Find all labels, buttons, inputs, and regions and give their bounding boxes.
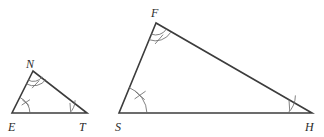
similar-triangles-diagram: N E T F S [0, 0, 324, 137]
vertex-label-t: T [79, 120, 87, 134]
vertex-label-e: E [7, 120, 16, 134]
angle-mark-e [20, 98, 30, 114]
angle-s-arc [130, 88, 148, 113]
angle-h-slash [289, 100, 290, 111]
vertex-label-h: H [304, 120, 315, 134]
angle-f-arc-outer [149, 33, 170, 41]
triangle-fsh: F S H [115, 6, 315, 134]
angle-t-slash [70, 103, 71, 111]
triangle-fsh-outline [119, 23, 312, 113]
geometry-figure-canvas: N E T F S [0, 0, 324, 137]
triangle-net: N E T [7, 57, 87, 134]
angle-f-slash [155, 35, 162, 44]
vertex-label-n: N [25, 57, 35, 71]
angle-mark-s [130, 88, 148, 113]
vertex-label-s: S [115, 120, 121, 134]
triangle-net-outline [12, 71, 87, 113]
angle-mark-h [288, 96, 295, 113]
vertex-label-f: F [150, 6, 159, 20]
